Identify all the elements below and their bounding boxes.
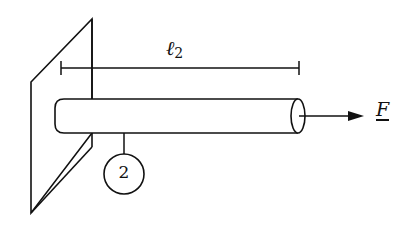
wall-diagonal-lower bbox=[31, 147, 92, 213]
length-index: 2 bbox=[174, 45, 183, 61]
element-number-label: 2 bbox=[112, 162, 136, 182]
force-label: F bbox=[376, 100, 389, 121]
diagram-drawing bbox=[0, 0, 413, 228]
length-label: ℓ2 bbox=[166, 36, 183, 61]
force-arrow-head bbox=[348, 111, 364, 121]
bar bbox=[55, 99, 298, 133]
cantilever-diagram: ℓ2 F 2 bbox=[0, 0, 413, 228]
